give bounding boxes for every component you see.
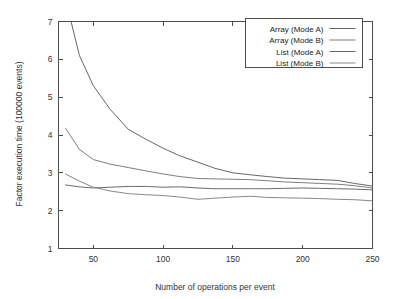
x-axis-title: Number of operations per event <box>155 282 275 292</box>
y-tick-label: 7 <box>48 17 53 27</box>
y-tick-label: 4 <box>48 130 53 140</box>
y-tick-label: 2 <box>48 206 53 216</box>
y-tick-label: 1 <box>48 244 53 254</box>
x-tick-label: 150 <box>226 254 240 264</box>
line-chart-figure: 123456750100150200250 Array (Mode A)Arra… <box>0 0 396 299</box>
chart-legend[interactable]: Array (Mode A)Array (Mode B)List (Mode A… <box>246 19 363 69</box>
chart-canvas: 123456750100150200250 Array (Mode A)Arra… <box>0 0 396 299</box>
x-tick-label: 50 <box>89 254 99 264</box>
x-tick-label: 200 <box>296 254 310 264</box>
legend-label-2: Array (Mode B) <box>269 36 324 45</box>
legend-label-1: Array (Mode A) <box>270 25 324 34</box>
y-tick-label: 5 <box>48 92 53 102</box>
y-tick-label: 3 <box>48 168 53 178</box>
series-line-3 <box>65 185 372 190</box>
y-tick-label: 6 <box>48 54 53 64</box>
x-tick-label: 100 <box>156 254 170 264</box>
y-axis-title: Factor execution time (100000 events) <box>14 61 24 206</box>
legend-label-4: List (Mode B) <box>276 59 324 68</box>
legend-label-3: List (Mode A) <box>276 48 323 57</box>
x-tick-label: 250 <box>365 254 379 264</box>
series-line-2 <box>65 128 372 188</box>
